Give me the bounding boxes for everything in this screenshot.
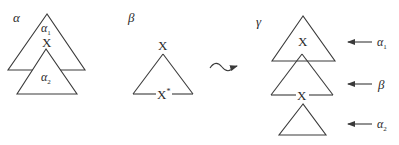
panel-alpha: α α1 X α2 [8, 10, 85, 94]
gamma-alpha2-tree [279, 104, 326, 135]
gamma-top-node-x: X [298, 34, 308, 49]
arrow-beta-label: β [377, 77, 385, 92]
derives-squiggle-arrow [210, 63, 237, 70]
panel-beta-title: β [127, 10, 135, 25]
beta-foot-x: X* [157, 87, 170, 102]
alpha-node-x: X [42, 35, 52, 50]
arrow-alpha2-label: α2 [377, 117, 387, 133]
arrow-alpha1-label: α1 [377, 35, 387, 51]
gamma-middle-node-x: X [297, 88, 307, 103]
panel-gamma: γ X X α1 β α2 [256, 14, 387, 135]
tree-adjunction-diagram: α α1 X α2 β X X* γ X X α1 β α2 [0, 0, 399, 145]
panel-beta: β X X* [127, 10, 193, 102]
beta-root-x: X [158, 38, 168, 53]
panel-alpha-title: α [13, 10, 21, 25]
panel-gamma-title: γ [256, 14, 262, 29]
